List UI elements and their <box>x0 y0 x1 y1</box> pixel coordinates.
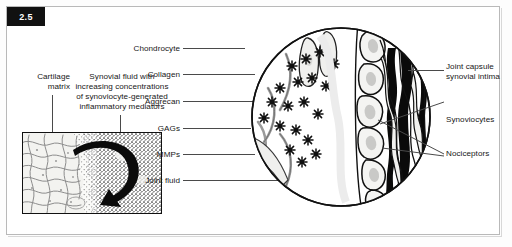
leader-chondrocyte <box>183 48 245 49</box>
leader-gags <box>183 128 251 129</box>
figure-container: 2.5 Cartilage matrix Synovial fluid with… <box>0 0 512 247</box>
label-joint-capsule-line1: Joint capsule <box>446 62 494 72</box>
leader-nociceptors <box>378 118 446 160</box>
figure-number-badge: 2.5 <box>7 7 45 26</box>
cartilage-matrix-inset <box>22 132 162 214</box>
synovial-caption-line2: increasing concentrations <box>68 82 176 92</box>
inset-artwork <box>23 133 161 213</box>
leader-cartilage-matrix <box>52 95 53 132</box>
label-chondrocyte: Chondrocyte <box>120 44 180 54</box>
label-gags: GAGs <box>120 124 180 134</box>
leader-mmps <box>183 154 255 155</box>
leader-joint-capsule <box>408 70 444 71</box>
label-collagen: Collagen <box>120 70 180 80</box>
label-synoviocytes: Synoviocytes <box>446 115 494 125</box>
cartilage-matrix-label-line1: Cartilage <box>8 72 70 82</box>
leader-collagen <box>183 74 255 75</box>
label-mmps: MMPs <box>120 150 180 160</box>
label-joint-fluid: Joint fluid <box>118 176 180 186</box>
cartilage-matrix-label-line2: matrix <box>8 82 70 92</box>
label-joint-capsule-line2: synovial intima <box>446 72 500 82</box>
label-aggrecan: Aggrecan <box>120 97 180 107</box>
label-nociceptors: Nociceptors <box>446 149 489 159</box>
